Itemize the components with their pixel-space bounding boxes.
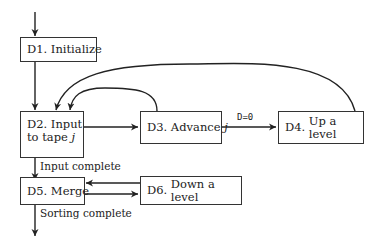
node-d1-initialize: D1. Initialize	[20, 37, 97, 62]
node-d2-var: j	[72, 130, 76, 144]
node-d4-label: Up a level	[309, 115, 357, 141]
node-d5-merge: D5. Merge	[20, 177, 85, 205]
node-d3-id: D3.	[147, 121, 167, 134]
edge-label-d-equals-0: D=0	[237, 112, 253, 122]
node-d5-label: Merge	[51, 185, 89, 198]
node-d3-var: j	[224, 121, 228, 134]
node-d3-advance: D3. Advance j	[140, 111, 222, 144]
node-d6-label: Down a level	[171, 178, 235, 204]
node-d2-label-line2: to tape	[27, 130, 68, 144]
node-d3-label: Advance	[171, 121, 221, 134]
node-d4-up-a-level: D4. Up a level	[278, 111, 364, 144]
node-d6-down-a-level: D6. Down a level	[140, 176, 242, 205]
node-d1-label: Initialize	[51, 43, 102, 56]
d4-to-d2-arrow	[56, 63, 355, 111]
edge-label-input-complete: Input complete	[40, 160, 121, 172]
node-d4-id: D4.	[285, 121, 305, 134]
node-d6-id: D6.	[147, 184, 167, 197]
node-d2-id: D2.	[27, 117, 47, 131]
d3-to-d2-arrow	[70, 88, 157, 111]
node-d5-id: D5.	[27, 185, 47, 198]
node-d2-input-to-tape: D2. Input to tape j	[20, 111, 84, 158]
node-d2-label-line1: Input	[51, 117, 82, 131]
node-d1-id: D1.	[27, 43, 47, 56]
edge-label-sorting-complete: Sorting complete	[40, 207, 132, 219]
